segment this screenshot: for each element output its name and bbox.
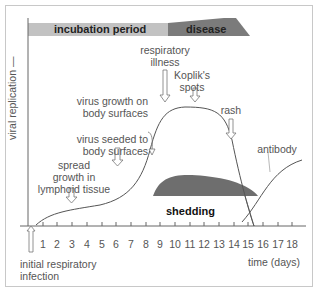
initial-infection-label: initial respiratory infection xyxy=(20,258,96,282)
kopliks-spots-label: Koplik's spots xyxy=(170,69,214,93)
disease-label: disease xyxy=(186,22,226,36)
lymphoid-spread-label: spread growth in lymphoid tissue xyxy=(34,159,114,195)
x-tick: 10 xyxy=(167,238,183,250)
x-tick: 13 xyxy=(211,238,227,250)
x-tick: 15 xyxy=(240,238,256,250)
x-tick: 9 xyxy=(152,238,168,250)
shedding-label: shedding xyxy=(166,205,215,217)
antibody-label: antibody xyxy=(252,143,302,155)
virus-seeded-label: virus seeded to body surfaces xyxy=(70,133,148,157)
virus-growth-label: virus growth on body surfaces xyxy=(70,95,148,119)
arrow-initial xyxy=(27,226,35,252)
rash-label: rash xyxy=(218,104,244,116)
x-tick: 16 xyxy=(255,238,271,250)
x-tick: 4 xyxy=(79,238,95,250)
arrow-resp xyxy=(160,70,170,102)
x-tick: 6 xyxy=(108,238,124,250)
x-tick: 18 xyxy=(284,238,300,250)
measles-timeline-diagram: incubation period disease viral replicat… xyxy=(0,0,318,292)
x-axis-label: time (days) xyxy=(236,256,300,268)
arrow-rash xyxy=(226,119,236,139)
x-tick: 2 xyxy=(49,238,65,250)
incubation-period-label: incubation period xyxy=(54,22,146,36)
x-tick: 12 xyxy=(196,238,212,250)
x-tick: 7 xyxy=(123,238,139,250)
x-tick: 3 xyxy=(64,238,80,250)
y-axis-label: viral replication — xyxy=(6,57,18,140)
respiratory-illness-label: respiratory illness xyxy=(139,44,191,68)
arrow-growth xyxy=(148,132,152,150)
